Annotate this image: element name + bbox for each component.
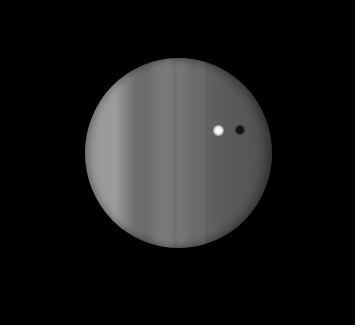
moon xyxy=(213,125,224,136)
planet-disk xyxy=(85,58,272,248)
moon-shadow xyxy=(235,125,245,135)
light-cloud-band xyxy=(197,58,204,248)
light-cloud-band xyxy=(164,58,173,248)
